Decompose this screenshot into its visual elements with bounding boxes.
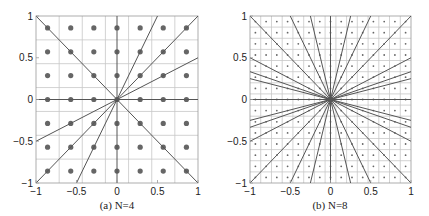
y-tick-label: −0.5 bbox=[13, 136, 33, 147]
sample-dot bbox=[265, 143, 267, 145]
sample-dot bbox=[394, 43, 396, 45]
sample-dot bbox=[297, 143, 299, 145]
direction-lines bbox=[36, 16, 198, 183]
y-tick-label: 0 bbox=[27, 94, 33, 105]
sample-dot bbox=[340, 177, 342, 179]
sample-dot bbox=[351, 21, 353, 23]
sample-dot bbox=[297, 43, 299, 45]
sample-dot bbox=[319, 132, 321, 134]
sample-dot bbox=[308, 21, 310, 23]
sample-dot bbox=[276, 32, 278, 34]
sample-dot bbox=[373, 132, 375, 134]
subplot-a-n4: −1−0.500.51−1−0.500.51 bbox=[13, 11, 201, 198]
sample-dot bbox=[91, 49, 96, 54]
sample-dot bbox=[373, 154, 375, 156]
sample-dot bbox=[351, 43, 353, 45]
sample-dot bbox=[351, 177, 353, 179]
sample-dot bbox=[138, 168, 143, 173]
sample-dot bbox=[287, 132, 289, 134]
sample-dot bbox=[254, 76, 256, 78]
sample-dot bbox=[405, 110, 407, 112]
y-tick-label: 0.5 bbox=[233, 52, 247, 63]
sample-dot bbox=[383, 65, 385, 67]
sample-dot bbox=[340, 165, 342, 167]
sample-dot bbox=[297, 154, 299, 156]
sample-dot bbox=[383, 132, 385, 134]
x-tick-label: 1 bbox=[408, 186, 414, 197]
sample-dot bbox=[45, 49, 50, 54]
sample-dot bbox=[394, 143, 396, 145]
sample-dot bbox=[276, 110, 278, 112]
sample-dot bbox=[405, 143, 407, 145]
sample-dot bbox=[362, 177, 364, 179]
sample-dot bbox=[319, 165, 321, 167]
x-tick-label: −0.5 bbox=[280, 186, 300, 197]
sample-dot bbox=[68, 73, 73, 78]
x-tick-label: −0.5 bbox=[67, 186, 87, 197]
sample-dot bbox=[276, 132, 278, 134]
y-tick-label: −1 bbox=[236, 178, 248, 189]
sample-dot bbox=[308, 43, 310, 45]
sample-dot bbox=[373, 65, 375, 67]
sample-dot bbox=[405, 87, 407, 89]
sample-dot bbox=[405, 121, 407, 123]
sample-dot bbox=[68, 168, 73, 173]
sample-dot bbox=[276, 65, 278, 67]
sample-dot bbox=[308, 165, 310, 167]
sample-dot bbox=[362, 21, 364, 23]
sample-dot bbox=[45, 73, 50, 78]
sample-dot bbox=[254, 165, 256, 167]
sample-dot bbox=[276, 87, 278, 89]
sample-dot bbox=[138, 145, 143, 150]
sample-dot bbox=[405, 76, 407, 78]
sample-dot bbox=[254, 143, 256, 145]
sample-dot bbox=[68, 25, 73, 30]
y-tick-label: −1 bbox=[22, 178, 34, 189]
sample-dot bbox=[265, 21, 267, 23]
sample-dot bbox=[394, 110, 396, 112]
x-tick-label: 0 bbox=[328, 186, 334, 197]
sample-dot bbox=[394, 154, 396, 156]
sample-dot bbox=[373, 21, 375, 23]
sample-dot bbox=[405, 32, 407, 34]
sample-dot bbox=[362, 54, 364, 56]
sample-dot bbox=[308, 32, 310, 34]
sample-dot bbox=[319, 32, 321, 34]
sample-dot bbox=[340, 132, 342, 134]
sample-dot bbox=[362, 76, 364, 78]
sample-dot bbox=[45, 145, 50, 150]
sample-dot bbox=[351, 154, 353, 156]
direction-lines bbox=[250, 16, 411, 183]
sample-dot bbox=[383, 110, 385, 112]
sample-dot bbox=[287, 32, 289, 34]
sample-dot bbox=[373, 32, 375, 34]
sample-dot bbox=[184, 73, 189, 78]
sample-dot bbox=[276, 143, 278, 145]
sample-dot bbox=[254, 65, 256, 67]
sample-dot bbox=[297, 177, 299, 179]
sample-dot bbox=[184, 121, 189, 126]
sample-dot bbox=[276, 165, 278, 167]
sample-dot bbox=[308, 177, 310, 179]
sample-dot bbox=[351, 165, 353, 167]
sample-dot bbox=[319, 21, 321, 23]
sample-dot bbox=[362, 143, 364, 145]
sample-dot bbox=[287, 154, 289, 156]
sample-dot bbox=[254, 154, 256, 156]
sample-dot bbox=[276, 76, 278, 78]
sample-dot bbox=[405, 165, 407, 167]
sample-dot bbox=[383, 143, 385, 145]
sample-dot bbox=[373, 177, 375, 179]
sample-dot bbox=[276, 54, 278, 56]
sample-dot bbox=[265, 110, 267, 112]
y-tick-label: 0.5 bbox=[19, 52, 33, 63]
sample-dot bbox=[138, 25, 143, 30]
sample-dot bbox=[91, 168, 96, 173]
sample-dot bbox=[394, 54, 396, 56]
sample-dot bbox=[351, 132, 353, 134]
sample-dot bbox=[394, 87, 396, 89]
sample-dot bbox=[383, 87, 385, 89]
sample-dot bbox=[383, 54, 385, 56]
sample-dot bbox=[161, 168, 166, 173]
sample-dot bbox=[340, 32, 342, 34]
